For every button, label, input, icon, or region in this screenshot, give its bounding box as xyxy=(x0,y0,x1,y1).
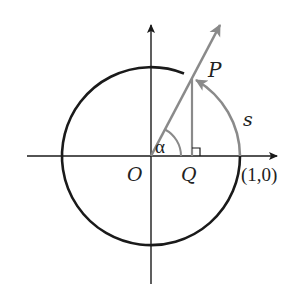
label-s: s xyxy=(243,108,253,130)
label-alpha: α xyxy=(155,136,165,157)
arc-s xyxy=(196,80,240,156)
label-o: O xyxy=(127,163,143,185)
angle-alpha-arc xyxy=(165,130,181,157)
diagram-canvas: P s α O Q (1,0) xyxy=(0,0,296,297)
right-angle-marker xyxy=(192,148,200,156)
label-q: Q xyxy=(181,163,197,185)
label-point-1-0: (1,0) xyxy=(241,164,277,186)
unit-circle-diagram: P s α O Q (1,0) xyxy=(0,0,296,297)
label-p: P xyxy=(207,58,222,82)
